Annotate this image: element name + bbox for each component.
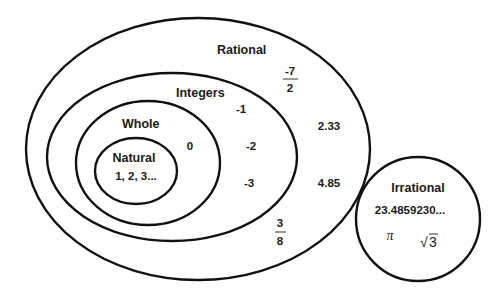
natural-examples: 1, 2, 3... xyxy=(115,170,157,182)
irrational-label: Irrational xyxy=(391,181,445,195)
whole-example-zero: 0 xyxy=(187,140,193,152)
integers-label: Integers xyxy=(176,86,225,100)
sqrt-symbol: √ xyxy=(420,234,428,250)
irrational-example-decimal: 23.4859230... xyxy=(375,204,445,216)
fraction-3-8-numerator: 3 xyxy=(277,217,283,229)
pi-symbol: π xyxy=(386,228,394,243)
integer-example-neg1: -1 xyxy=(236,103,247,115)
natural-label: Natural xyxy=(112,151,155,165)
rational-label: Rational xyxy=(217,43,266,57)
fraction-neg7-numerator: -7 xyxy=(285,65,295,77)
integer-example-neg3: -3 xyxy=(244,177,254,189)
rational-example-4-85: 4.85 xyxy=(318,177,341,189)
integer-example-neg2: -2 xyxy=(246,140,256,152)
sqrt-radicand: 3 xyxy=(429,234,437,250)
fraction-3-8-denominator: 8 xyxy=(277,235,284,247)
rational-example-2-33: 2.33 xyxy=(318,120,340,132)
number-sets-venn-diagram: Rational -7 2 2.33 4.85 3 8 Integers -1 … xyxy=(0,0,498,299)
irrational-set-circle xyxy=(356,157,480,281)
fraction-neg7-denominator: 2 xyxy=(287,82,293,94)
whole-label: Whole xyxy=(122,117,160,131)
